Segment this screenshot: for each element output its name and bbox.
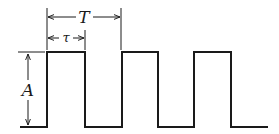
pulse-width-label: τ — [62, 30, 70, 45]
period-label: T — [78, 7, 91, 27]
pulse-waveform — [20, 52, 268, 127]
pulse-train-diagram: A T τ — [0, 0, 279, 134]
amplitude-label: A — [20, 80, 34, 100]
